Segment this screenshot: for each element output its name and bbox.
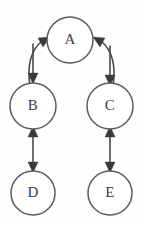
node-d-label: D [27, 184, 38, 200]
node-c[interactable]: C [87, 83, 133, 129]
node-b[interactable]: B [10, 83, 56, 129]
node-e-label: E [105, 184, 114, 200]
node-b-label: B [28, 97, 38, 113]
diagram-canvas: A B C D E [0, 0, 143, 226]
graph-diagram: A B C D E [0, 0, 143, 226]
node-e[interactable]: E [88, 171, 132, 215]
edge-c-e [105, 126, 115, 173]
node-a-label: A [64, 31, 75, 47]
node-d[interactable]: D [11, 171, 55, 215]
node-a[interactable]: A [47, 17, 93, 63]
edge-b-d [28, 126, 38, 173]
node-c-label: C [105, 97, 115, 113]
